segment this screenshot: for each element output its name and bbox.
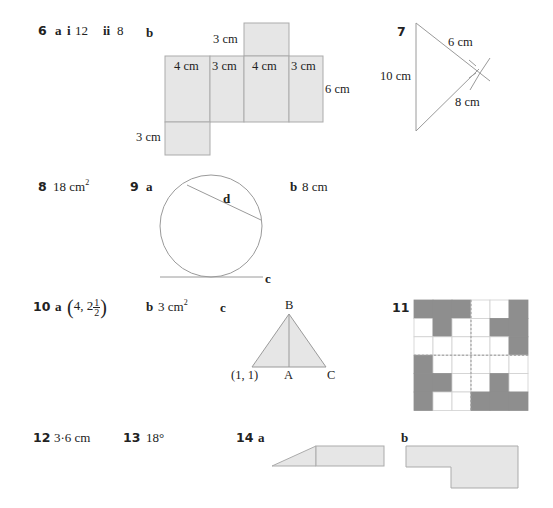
- q10-part-b: b: [146, 299, 153, 314]
- grid-cell: [414, 300, 433, 318]
- grid-cell: [433, 392, 452, 410]
- q14-number: 14: [236, 430, 253, 445]
- paren-open: (: [67, 296, 74, 318]
- net-bottom-side-label: 3 cm: [136, 130, 161, 145]
- q10-number: 10: [33, 299, 50, 314]
- grid-cell: [471, 337, 490, 355]
- grid-cell: [471, 374, 490, 392]
- q12-number: 12: [33, 430, 50, 445]
- q14-part-a: a: [258, 430, 265, 445]
- q10-label-origin: (1, 1): [231, 368, 258, 383]
- q7-side-lower-label: 8 cm: [455, 95, 480, 110]
- circle: [160, 175, 262, 277]
- grid-cell: [490, 337, 509, 355]
- grid-cell: [490, 392, 509, 410]
- q10-label-b: B: [285, 298, 293, 313]
- q6-net-diagram: [165, 23, 323, 155]
- q6-part-a-i-value: 12: [75, 23, 88, 38]
- grid-cell: [490, 355, 509, 373]
- q10-part-a-text: 4, 2: [74, 298, 94, 313]
- grid-cell: [509, 337, 528, 355]
- q14b-shape: [406, 446, 518, 488]
- q11-number: 11: [392, 300, 409, 315]
- grid-cell: [452, 374, 471, 392]
- net-face-2-label: 3 cm: [212, 59, 237, 74]
- grid-cell: [509, 374, 528, 392]
- q7-side-upper-label: 6 cm: [448, 35, 473, 50]
- grid-cell: [471, 318, 490, 336]
- q13-value: 18°: [146, 430, 164, 445]
- grid-cell: [433, 355, 452, 373]
- net-face-1-label: 4 cm: [174, 59, 199, 74]
- grid-cell: [433, 300, 452, 318]
- q6-part-a: a: [55, 23, 62, 38]
- net-top-side-label: 3 cm: [213, 32, 238, 47]
- grid-cell: [414, 355, 433, 373]
- grid-cell: [414, 318, 433, 336]
- grid-cell: [452, 337, 471, 355]
- q6-number: 6: [38, 23, 47, 38]
- net-face-3-label: 4 cm: [252, 59, 277, 74]
- q8-value-sup: 2: [85, 178, 89, 187]
- grid-cell: [433, 337, 452, 355]
- q10-part-c: c: [220, 300, 226, 315]
- q10-triangle-diagram: [252, 314, 326, 367]
- q10-part-a: a: [55, 299, 62, 314]
- q8-value: 18 cm2: [53, 179, 89, 194]
- q13-number: 13: [123, 430, 140, 445]
- q10-label-c: C: [327, 368, 335, 383]
- paren-close: ): [100, 296, 107, 318]
- grid-cell: [509, 392, 528, 410]
- grid-cell: [509, 300, 528, 318]
- q8-value-text: 18 cm: [53, 179, 85, 194]
- grid-cell: [471, 355, 490, 373]
- q7-side-left-label: 10 cm: [380, 69, 411, 84]
- grid-cell: [414, 337, 433, 355]
- q6-part-a-ii: ii: [103, 23, 110, 38]
- q9-part-b-value: 8 cm: [302, 179, 328, 194]
- grid-cell: [471, 300, 490, 318]
- q9-circle-diagram: [160, 175, 263, 277]
- q10-part-a-value: (4, 212): [67, 292, 107, 321]
- q10-part-b-sup: 2: [184, 298, 188, 307]
- grid-cell: [490, 300, 509, 318]
- net-top-face: [244, 23, 289, 56]
- q7-number: 7: [397, 24, 406, 39]
- grid-cell: [509, 318, 528, 336]
- q12-value: 3·6 cm: [54, 430, 90, 445]
- q9-tangent-label: c: [265, 271, 271, 286]
- q14-part-b: b: [401, 430, 408, 445]
- net-height-label: 6 cm: [325, 82, 350, 97]
- grid-cell: [452, 300, 471, 318]
- q10-part-b-value: 3 cm2: [158, 299, 188, 314]
- q6-part-a-i: i: [67, 23, 71, 38]
- grid-cell: [490, 318, 509, 336]
- grid-cell: [452, 318, 471, 336]
- grid-cell: [414, 374, 433, 392]
- q9-part-a: a: [146, 179, 153, 194]
- q11-pattern-grid: [414, 300, 528, 410]
- q9-number: 9: [130, 179, 139, 194]
- grid-cell: [490, 374, 509, 392]
- grid-cell: [471, 392, 490, 410]
- q6-part-b: b: [146, 25, 153, 40]
- grid-cell: [433, 318, 452, 336]
- grid-cell: [509, 355, 528, 373]
- grid-cell: [452, 392, 471, 410]
- q8-number: 8: [38, 179, 47, 194]
- q10-part-b-text: 3 cm: [158, 299, 184, 314]
- q10-label-a: A: [284, 368, 293, 383]
- q6-part-a-ii-value: 8: [117, 23, 124, 38]
- net-bottom-face: [165, 122, 210, 155]
- grid-cell: [414, 392, 433, 410]
- q9-chord-label: d: [223, 191, 230, 206]
- grid-cell: [452, 355, 471, 373]
- q9-part-b: b: [290, 179, 297, 194]
- q14a-shape: [272, 446, 384, 466]
- grid-cell: [433, 374, 452, 392]
- net-face-4-label: 3 cm: [291, 59, 316, 74]
